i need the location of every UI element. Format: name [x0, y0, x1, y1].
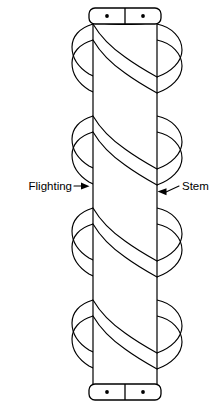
bottom-cap-dot-right: [141, 390, 145, 394]
bottom-cap: [89, 384, 161, 400]
auger-diagram-svg: Flighting Stem: [0, 0, 215, 408]
top-cap: [89, 8, 161, 24]
stem-label: Stem: [182, 180, 209, 192]
top-cap-dot-right: [141, 14, 145, 18]
bottom-cap-dot-left: [105, 390, 109, 394]
stem-cylinder: [93, 20, 157, 392]
auger-figure: Flighting Stem: [0, 0, 215, 408]
top-cap-dot-left: [105, 14, 109, 18]
stem-body-shape: [93, 20, 157, 392]
flighting-label: Flighting: [29, 180, 72, 192]
